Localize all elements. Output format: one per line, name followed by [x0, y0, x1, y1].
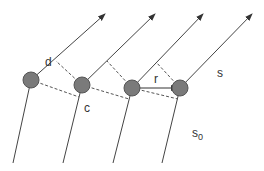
label-s: s — [217, 66, 223, 80]
incoming-ray-1 — [13, 80, 31, 163]
scatterer-node-4 — [172, 80, 188, 96]
incoming-rays — [13, 80, 180, 163]
label-s0: s0 — [192, 126, 203, 142]
scatterer-node-3 — [124, 80, 140, 96]
label-d: d — [45, 55, 52, 69]
label-c: c — [84, 101, 90, 115]
outgoing-ray-3 — [132, 14, 203, 88]
scatterer-node-2 — [74, 77, 90, 93]
label-s0-subscript: 0 — [198, 132, 203, 142]
outgoing-ray-1 — [31, 14, 105, 80]
nodes — [23, 72, 188, 96]
label-r: r — [154, 72, 158, 86]
scatterer-node-1 — [23, 72, 39, 88]
diagram-svg: d c r s s0 — [0, 0, 264, 171]
incoming-ray-3 — [113, 88, 132, 163]
wavefront-diagram: d c r s s0 — [0, 0, 264, 171]
outgoing-ray-4 — [180, 14, 252, 88]
incoming-ray-2 — [63, 85, 82, 163]
